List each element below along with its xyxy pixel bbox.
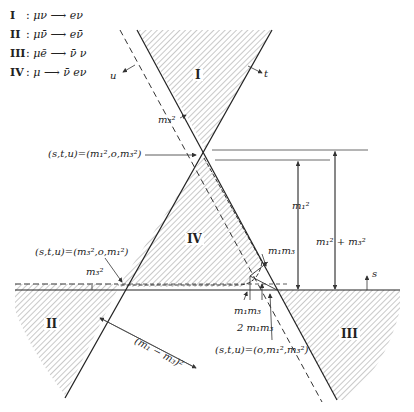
m3sq-top-label: m₃²	[158, 114, 176, 125]
legend-row-II: II: μν̄ ⟶ eν̄	[10, 25, 87, 44]
m1sq-plus-m3sq-label: m₁² + m₃²	[316, 236, 366, 247]
m1m3-right-label: m₁m₃	[268, 245, 295, 256]
arrow-icon: ⟶	[44, 66, 60, 79]
arrow-icon: ⟶	[51, 28, 67, 41]
two-m1m3-label: 2 m₁m₃	[237, 322, 274, 333]
legend-row-III: III: μē ⟶ ν̄ ν	[10, 44, 87, 63]
t-axis-label: t	[264, 68, 268, 79]
m1m3-bottom-label: m₁m₃	[234, 305, 261, 316]
legend-row-IV: IV: μ ⟶ ν̄ eν	[10, 63, 87, 82]
point-bottom-label: (s,t,u)=(o,m₁²,m₃²)	[215, 344, 308, 355]
legend-row-I: I: μν ⟶ eν	[10, 6, 87, 25]
u-axis-label: u	[110, 70, 116, 81]
arrow-icon: ⟶	[50, 47, 66, 60]
region-II	[15, 284, 120, 395]
t-zero-line	[65, 30, 272, 398]
region-label-III: III	[339, 328, 360, 340]
region-label-II: II	[44, 318, 59, 330]
s-axis-label: s	[372, 268, 377, 279]
region-I	[137, 30, 272, 148]
region-label-I: I	[193, 69, 203, 81]
arrow-icon: ⟶	[51, 9, 67, 22]
point-top-label: (s,t,u)=(m₁²,o,m₃²)	[48, 148, 141, 159]
m3sq-left-label: m₃²	[86, 266, 104, 277]
process-legend: I: μν ⟶ eν II: μν̄ ⟶ eν̄ III: μē ⟶ ν̄ ν …	[10, 6, 87, 82]
region-label-IV: IV	[185, 233, 204, 245]
point-left-label: (s,t,u)=(m₃²,o,m₁²)	[35, 246, 128, 257]
m1sq-label: m₁²	[292, 200, 310, 211]
